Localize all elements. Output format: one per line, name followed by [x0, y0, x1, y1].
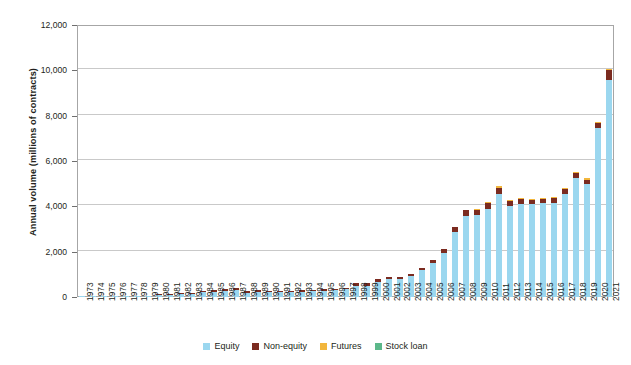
x-tick-label: 1992 [294, 282, 303, 301]
bar-segment-nonequity [606, 70, 612, 80]
x-tick-label: 1995 [327, 282, 336, 301]
legend-swatch [375, 343, 382, 350]
x-tick-label: 2011 [502, 283, 511, 301]
x-tick-label: 1977 [130, 282, 139, 301]
x-tick-label: 2001 [393, 282, 402, 301]
x-tick-label: 1991 [283, 282, 292, 301]
y-tick-label: 12,000 [9, 20, 67, 30]
bar-column[interactable] [562, 188, 568, 297]
y-tick-label: 2,000 [9, 247, 67, 257]
y-tick-label: 4,000 [9, 201, 67, 211]
x-tick-label: 1982 [184, 282, 193, 301]
x-tick-label: 2013 [524, 282, 533, 301]
x-tick-label: 1973 [86, 282, 95, 301]
x-tick-label: 2005 [436, 282, 445, 301]
x-tick-label: 2014 [535, 282, 544, 301]
bar-column[interactable] [496, 186, 502, 297]
x-tick-label: 2019 [590, 282, 599, 301]
bar-column[interactable] [79, 296, 85, 297]
x-tick-label: 2015 [546, 282, 555, 301]
x-tick-label: 1990 [272, 282, 281, 301]
legend-label: Stock loan [386, 341, 428, 351]
x-tick-label: 2008 [469, 282, 478, 301]
bar-series-group [77, 25, 614, 297]
x-tick-label: 2018 [579, 282, 588, 301]
x-tick-label: 2021 [612, 282, 621, 301]
x-tick-label: 1986 [228, 282, 237, 301]
x-tick-label: 1987 [239, 282, 248, 301]
x-tick-label: 1981 [173, 282, 182, 301]
legend-swatch [320, 343, 327, 350]
x-tick-label: 1976 [119, 282, 128, 301]
legend-label: Futures [331, 341, 362, 351]
bar-column[interactable] [584, 178, 590, 297]
x-tick-label: 1978 [140, 282, 149, 301]
x-tick-label: 2017 [568, 282, 577, 301]
x-tick-label: 1974 [97, 282, 106, 301]
x-axis: 1973197419751976197719781979198019811982… [77, 299, 614, 339]
x-tick-label: 1994 [316, 282, 325, 301]
bar-segment-equity [573, 178, 579, 297]
x-tick-label: 2003 [414, 282, 423, 301]
bar-segment-equity [606, 80, 612, 297]
x-tick-label: 1988 [250, 282, 259, 301]
x-tick-label: 1998 [360, 282, 369, 301]
x-tick-label: 1985 [217, 282, 226, 301]
chart-legend: EquityNon-equityFuturesStock loan [0, 341, 631, 351]
bar-segment-equity [595, 128, 601, 297]
x-tick-label: 1979 [151, 282, 160, 301]
x-tick-label: 1993 [305, 282, 314, 301]
x-tick-label: 2002 [403, 282, 412, 301]
x-tick-label: 2007 [458, 282, 467, 301]
legend-label: Equity [214, 341, 239, 351]
bar-segment-equity [79, 296, 85, 297]
y-tick-label: 0 [9, 292, 67, 302]
legend-item[interactable]: Equity [203, 341, 239, 351]
legend-item[interactable]: Non-equity [252, 341, 307, 351]
x-tick-label: 2006 [447, 282, 456, 301]
x-tick-label: 1980 [162, 282, 171, 301]
legend-swatch [252, 343, 259, 350]
y-tick-label: 10,000 [9, 65, 67, 75]
y-tick-label: 8,000 [9, 111, 67, 121]
x-tick-label: 1983 [195, 282, 204, 301]
x-tick-label: 2004 [425, 282, 434, 301]
x-tick-label: 1989 [261, 282, 270, 301]
x-tick-label: 1975 [108, 282, 117, 301]
legend-label: Non-equity [263, 341, 307, 351]
x-tick-label: 2009 [480, 282, 489, 301]
bar-segment-equity [584, 184, 590, 297]
legend-item[interactable]: Futures [320, 341, 362, 351]
x-tick-label: 1996 [338, 282, 347, 301]
x-tick-label: 2016 [557, 282, 566, 301]
bar-column[interactable] [573, 172, 579, 298]
x-tick-label: 2010 [491, 282, 500, 301]
legend-item[interactable]: Stock loan [375, 341, 428, 351]
chart-figure: Annual volume (millions of contracts) 02… [0, 0, 631, 365]
x-tick-label: 2020 [601, 282, 610, 301]
bar-column[interactable] [595, 122, 601, 297]
x-tick-label: 2000 [382, 282, 391, 301]
x-tick-label: 1984 [206, 282, 215, 301]
x-tick-label: 1997 [349, 282, 358, 301]
y-tick-mark [72, 297, 77, 298]
y-tick-label: 6,000 [9, 156, 67, 166]
x-tick-label: 2012 [513, 282, 522, 301]
legend-swatch [203, 343, 210, 350]
x-tick-label: 1999 [371, 282, 380, 301]
bar-column[interactable] [606, 69, 612, 297]
